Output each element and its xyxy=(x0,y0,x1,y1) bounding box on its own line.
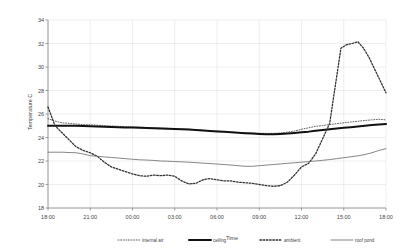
x-tick-label: 21:00 xyxy=(83,214,97,220)
temperature-chart: 182022242628303234 18:0021:0000:0003:000… xyxy=(0,0,407,251)
y-tick-label: 26 xyxy=(38,111,44,117)
x-tick-label: 03:00 xyxy=(168,214,182,220)
y-tick-label: 34 xyxy=(38,17,44,23)
x-tick-label: 12:00 xyxy=(295,214,309,220)
x-tick-label: 09:00 xyxy=(252,214,266,220)
y-tick-label: 32 xyxy=(38,41,44,47)
y-tick-labels: 182022242628303234 xyxy=(38,17,44,211)
x-tick-label: 00:00 xyxy=(126,214,140,220)
x-tick-labels: 18:0021:0000:0003:0006:0009:0012:0015:00… xyxy=(41,214,393,220)
y-axis-title: Temperature C xyxy=(27,94,33,130)
legend: internal airceilingambientroof pond xyxy=(118,238,375,243)
y-tick-label: 18 xyxy=(38,205,44,211)
y-tick-label: 22 xyxy=(38,158,44,164)
x-tick-label: 18:00 xyxy=(379,214,393,220)
legend-label-internal-air: internal air xyxy=(142,238,164,243)
legend-label-ceiling: ceiling xyxy=(213,238,226,243)
legend-label-roof-pond: roof pond xyxy=(355,238,375,243)
x-tick-label: 15:00 xyxy=(337,214,351,220)
y-tick-label: 24 xyxy=(38,135,44,141)
y-tick-label: 28 xyxy=(38,88,44,94)
x-tick-label: 06:00 xyxy=(210,214,224,220)
legend-label-ambient: ambient xyxy=(284,238,301,243)
y-tick-label: 30 xyxy=(38,64,44,70)
y-tick-label: 20 xyxy=(38,182,44,188)
x-axis-title: Time xyxy=(226,235,238,241)
chart-canvas: 182022242628303234 18:0021:0000:0003:000… xyxy=(0,0,407,251)
x-tick-label: 18:00 xyxy=(41,214,55,220)
